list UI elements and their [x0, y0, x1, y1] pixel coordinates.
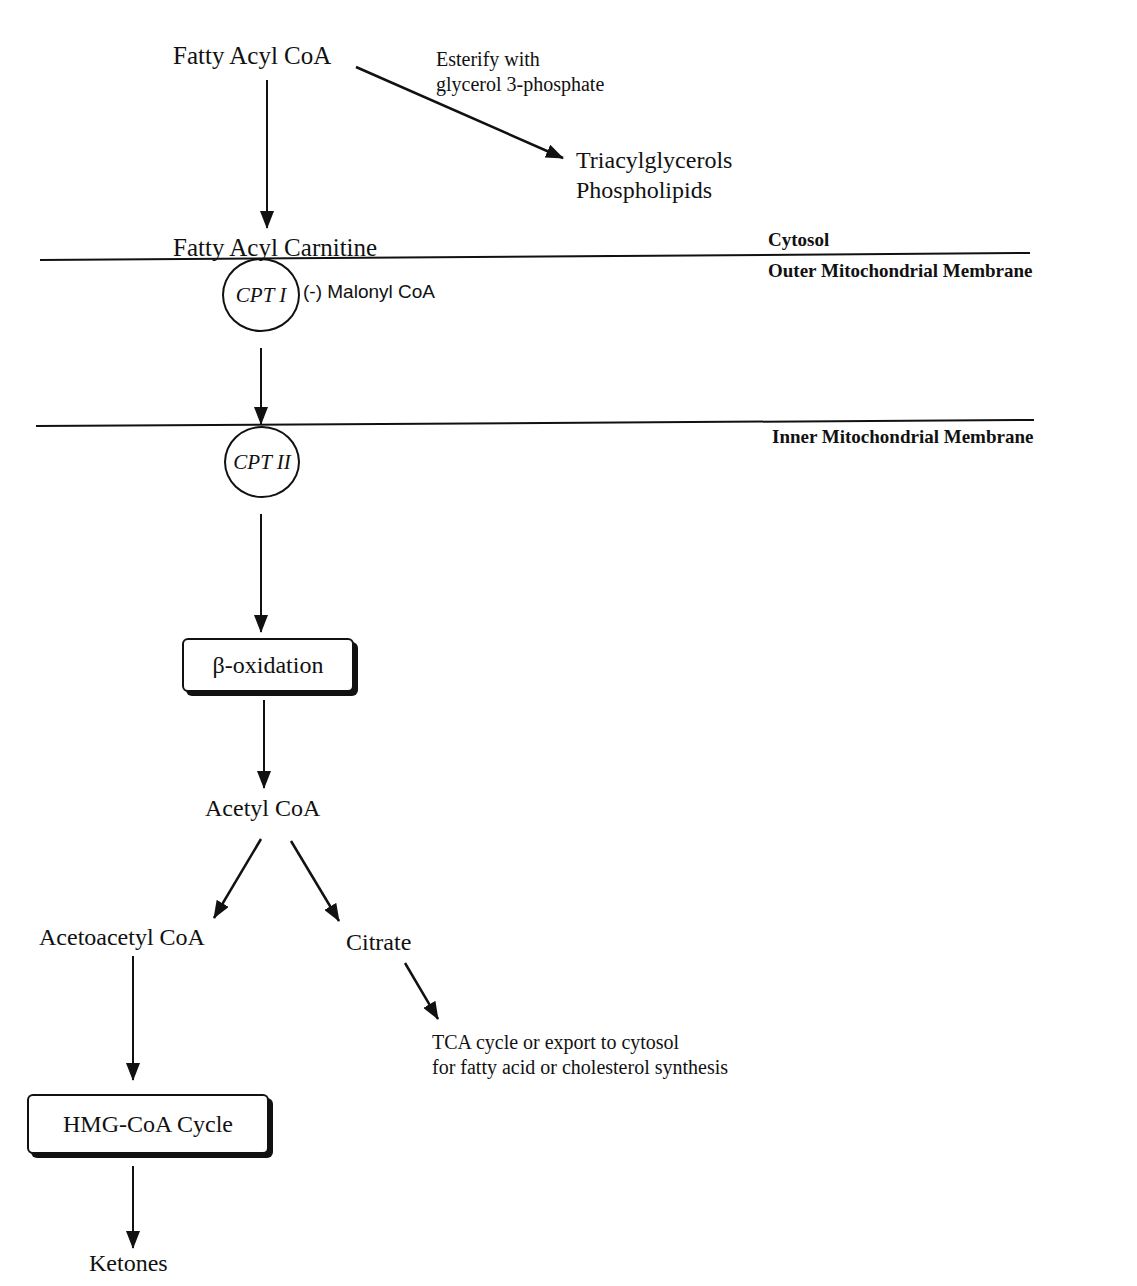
process-hmg-coa-cycle: HMG-CoA Cycle [27, 1094, 269, 1154]
node-ketones: Ketones [89, 1250, 168, 1276]
esterify-note-line2: glycerol 3-phosphate [436, 73, 604, 95]
node-triacylglycerols: Triacylglycerols [576, 147, 732, 173]
enzyme-cpt2: CPT II [224, 426, 300, 498]
compartment-inner-membrane: Inner Mitochondrial Membrane [772, 427, 1033, 448]
esterify-note-line1: Esterify with [436, 48, 540, 70]
cpt2-label: CPT II [233, 450, 290, 475]
node-acetoacetyl-coa: Acetoacetyl CoA [39, 924, 205, 950]
node-phospholipids: Phospholipids [576, 177, 712, 203]
node-fatty-acyl-coa: Fatty Acyl CoA [173, 42, 331, 70]
inhibitor-malonyl-coa: (-) Malonyl CoA [303, 282, 435, 303]
compartment-cytosol: Cytosol [768, 230, 829, 251]
tca-note-line2: for fatty acid or cholesterol synthesis [432, 1056, 728, 1078]
node-citrate: Citrate [346, 929, 411, 955]
compartment-outer-membrane: Outer Mitochondrial Membrane [768, 261, 1033, 282]
process-beta-oxidation: β-oxidation [182, 638, 354, 692]
beta-oxidation-label: β-oxidation [213, 652, 324, 679]
cpt1-label: CPT I [236, 283, 286, 308]
node-acetyl-coa: Acetyl CoA [205, 795, 320, 821]
enzyme-cpt1: CPT I [222, 258, 300, 332]
tca-note-line1: TCA cycle or export to cytosol [432, 1031, 679, 1053]
node-fatty-acyl-carnitine: Fatty Acyl Carnitine [173, 234, 377, 262]
hmg-coa-cycle-label: HMG-CoA Cycle [63, 1111, 233, 1138]
